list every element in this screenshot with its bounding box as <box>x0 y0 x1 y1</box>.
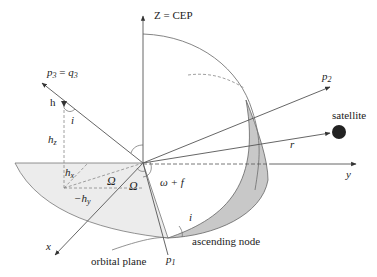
orbit-curve <box>112 238 168 251</box>
p3-axis <box>42 83 143 163</box>
p2-axis <box>143 87 330 163</box>
satellite-label: satellite <box>332 109 366 121</box>
i-top-label: i <box>71 114 74 126</box>
r-label: r <box>290 138 295 150</box>
orbital-diagram: Z = CEP p3 = q3 h i hz hx −hy Ω Ω ω + f … <box>0 0 377 277</box>
orbit-crescent <box>168 100 268 238</box>
y-axis-label: y <box>345 168 351 180</box>
orbital-plane-label: orbital plane <box>91 255 146 267</box>
p2-label: p2 <box>321 70 332 84</box>
h-label: h <box>50 96 56 108</box>
omega-cap-1-label: Ω <box>107 174 116 188</box>
p3-label: p3 = q3 <box>46 66 78 80</box>
angle-z-p3 <box>131 145 143 153</box>
omega-f-label: ω + f <box>160 176 186 188</box>
h-arrowhead <box>61 101 67 107</box>
ascending-node-label: ascending node <box>192 235 260 247</box>
x-axis-label: x <box>45 240 51 252</box>
z-axis-label: Z = CEP <box>154 9 193 21</box>
orbital-plane <box>15 163 168 238</box>
p1-label: p1 <box>165 253 176 267</box>
angle-i-top <box>64 108 75 112</box>
omega-cap-2-label: Ω <box>129 179 138 193</box>
meridian-arc <box>143 34 259 190</box>
hz-label: hz <box>48 133 58 147</box>
r-vector <box>143 133 330 163</box>
i-bottom-label: i <box>189 211 192 223</box>
satellite-dot <box>332 125 346 139</box>
dashed-arc <box>188 74 244 88</box>
